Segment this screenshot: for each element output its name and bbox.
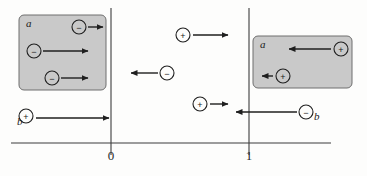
charge-sign-9: − bbox=[303, 108, 308, 118]
diagram-canvas: aa −−−+b+−+++−b 01 bbox=[0, 0, 367, 176]
charge-sign-7: + bbox=[338, 45, 343, 55]
charge-sign-8: + bbox=[280, 72, 285, 82]
region-label-0: a bbox=[26, 17, 32, 29]
axis-tick-labels: 01 bbox=[108, 148, 253, 163]
carrier-hole-middle-lower: + bbox=[193, 97, 228, 111]
charge-sign-4: + bbox=[180, 31, 185, 41]
charge-sign-6: + bbox=[197, 100, 202, 110]
carrier-label-9: b bbox=[314, 110, 320, 122]
carrier-hole-b-left: +b bbox=[17, 109, 109, 127]
axis-tick-label-0: 0 bbox=[108, 148, 115, 163]
region-label-1: a bbox=[260, 38, 266, 50]
carrier-hole-middle-upper: + bbox=[176, 28, 228, 42]
carrier-label-3: b bbox=[17, 115, 23, 127]
carrier-electron-middle: − bbox=[131, 66, 174, 80]
charge-sign-5: − bbox=[164, 69, 169, 79]
axis-tick-label-1: 1 bbox=[246, 148, 253, 163]
charge-sign-1: − bbox=[31, 47, 36, 57]
charge-sign-2: − bbox=[49, 74, 54, 84]
charge-sign-0: − bbox=[76, 23, 81, 33]
charge-sign-3: + bbox=[23, 112, 28, 122]
charge-carrier-diagram: aa −−−+b+−+++−b 01 bbox=[0, 0, 367, 176]
regions-layer: aa bbox=[19, 15, 352, 90]
